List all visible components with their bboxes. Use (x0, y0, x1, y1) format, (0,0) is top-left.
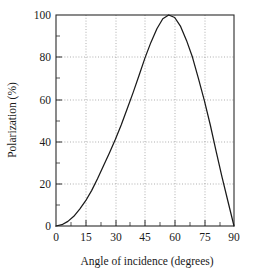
y-axis-minor-ticks (56, 36, 60, 205)
xticklabel-15: 15 (80, 231, 92, 243)
polarization-line-chart: 0 15 30 45 60 75 90 0 20 40 60 80 100 An… (0, 0, 259, 275)
xticklabel-75: 75 (199, 231, 211, 243)
xticklabel-60: 60 (169, 231, 181, 243)
yticklabel-0: 0 (45, 220, 51, 232)
x-axis-title: Angle of incidence (degrees) (80, 255, 213, 268)
xticklabel-0: 0 (53, 231, 59, 243)
x-tick-labels: 0 15 30 45 60 75 90 (53, 231, 240, 243)
yticklabel-20: 20 (40, 178, 52, 190)
xticklabel-90: 90 (228, 231, 240, 243)
y-axis-title: Polarization (%) (6, 82, 19, 158)
chart-figure: 0 15 30 45 60 75 90 0 20 40 60 80 100 An… (0, 0, 259, 275)
y-axis-major-ticks (56, 57, 62, 184)
x-axis-major-ticks (86, 220, 205, 226)
yticklabel-100: 100 (34, 9, 52, 21)
horizontal-gridlines (56, 57, 234, 184)
y-tick-labels: 0 20 40 60 80 100 (34, 9, 52, 232)
xticklabel-45: 45 (139, 231, 151, 243)
yticklabel-40: 40 (40, 136, 52, 148)
xticklabel-30: 30 (110, 231, 122, 243)
vertical-gridlines (86, 15, 205, 226)
yticklabel-60: 60 (40, 94, 52, 106)
yticklabel-80: 80 (40, 51, 52, 63)
